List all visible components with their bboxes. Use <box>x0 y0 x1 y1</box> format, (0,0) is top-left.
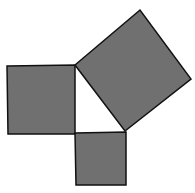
left-square <box>7 65 75 134</box>
bottom-square <box>75 132 126 185</box>
pythagoras-diagram <box>0 0 195 193</box>
